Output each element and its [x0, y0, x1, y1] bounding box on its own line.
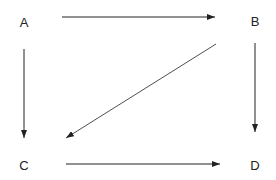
- edge-b-c-arrow: [66, 44, 216, 138]
- node-a: A: [20, 15, 29, 30]
- node-d: D: [250, 158, 259, 173]
- node-b: B: [251, 14, 260, 29]
- node-c: C: [19, 158, 28, 173]
- diagram-canvas: [0, 0, 276, 180]
